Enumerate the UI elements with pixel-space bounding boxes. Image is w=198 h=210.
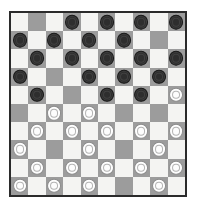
board-square-r4c9[interactable] <box>150 68 167 86</box>
white-piece[interactable] <box>152 179 166 194</box>
board-square-r7c1[interactable] <box>11 122 28 140</box>
board-square-r10c2[interactable] <box>28 177 45 195</box>
white-piece[interactable] <box>169 160 183 175</box>
white-piece[interactable] <box>169 124 183 139</box>
board-square-r7c8[interactable] <box>133 122 150 140</box>
black-piece[interactable] <box>30 88 44 103</box>
board-square-r1c4[interactable] <box>63 13 80 31</box>
board-square-r2c10[interactable] <box>168 31 185 49</box>
board-square-r6c5[interactable] <box>81 104 98 122</box>
black-piece[interactable] <box>13 33 27 48</box>
black-piece[interactable] <box>117 33 131 48</box>
board-square-r2c6[interactable] <box>98 31 115 49</box>
board-square-r1c1[interactable] <box>11 13 28 31</box>
board-square-r4c6[interactable] <box>98 68 115 86</box>
white-piece[interactable] <box>169 88 183 103</box>
board-square-r6c3[interactable] <box>46 104 63 122</box>
board-square-r7c10[interactable] <box>168 122 185 140</box>
board-square-r6c6[interactable] <box>98 104 115 122</box>
black-piece[interactable] <box>30 51 44 66</box>
board-square-r6c9[interactable] <box>150 104 167 122</box>
board-square-r3c3[interactable] <box>46 49 63 67</box>
board-square-r8c8[interactable] <box>133 140 150 158</box>
board-grid[interactable] <box>11 13 185 195</box>
black-piece[interactable] <box>100 88 114 103</box>
board-square-r5c9[interactable] <box>150 86 167 104</box>
board-square-r9c6[interactable] <box>98 159 115 177</box>
board-square-r5c1[interactable] <box>11 86 28 104</box>
board-square-r10c5[interactable] <box>81 177 98 195</box>
white-piece[interactable] <box>100 124 114 139</box>
board-square-r1c6[interactable] <box>98 13 115 31</box>
board-square-r2c4[interactable] <box>63 31 80 49</box>
black-piece[interactable] <box>169 51 183 66</box>
board-square-r5c5[interactable] <box>81 86 98 104</box>
board-square-r5c6[interactable] <box>98 86 115 104</box>
board-square-r7c4[interactable] <box>63 122 80 140</box>
board-square-r1c10[interactable] <box>168 13 185 31</box>
black-piece[interactable] <box>135 51 149 66</box>
black-piece[interactable] <box>82 69 96 84</box>
board-square-r3c10[interactable] <box>168 49 185 67</box>
board-square-r4c2[interactable] <box>28 68 45 86</box>
board-square-r5c8[interactable] <box>133 86 150 104</box>
board-square-r4c7[interactable] <box>115 68 132 86</box>
white-piece[interactable] <box>135 124 149 139</box>
board-square-r7c6[interactable] <box>98 122 115 140</box>
board-square-r2c2[interactable] <box>28 31 45 49</box>
black-piece[interactable] <box>65 15 79 30</box>
board-square-r5c4[interactable] <box>63 86 80 104</box>
black-piece[interactable] <box>100 15 114 30</box>
board-square-r2c5[interactable] <box>81 31 98 49</box>
white-piece[interactable] <box>65 124 79 139</box>
black-piece[interactable] <box>48 33 62 48</box>
board-square-r10c7[interactable] <box>115 177 132 195</box>
board-square-r9c4[interactable] <box>63 159 80 177</box>
board-square-r2c7[interactable] <box>115 31 132 49</box>
board-square-r9c3[interactable] <box>46 159 63 177</box>
board-square-r8c2[interactable] <box>28 140 45 158</box>
board-square-r6c1[interactable] <box>11 104 28 122</box>
white-piece[interactable] <box>82 106 96 121</box>
board-square-r7c5[interactable] <box>81 122 98 140</box>
board-square-r3c6[interactable] <box>98 49 115 67</box>
board-square-r10c6[interactable] <box>98 177 115 195</box>
board-square-r3c5[interactable] <box>81 49 98 67</box>
white-piece[interactable] <box>65 160 79 175</box>
white-piece[interactable] <box>82 142 96 157</box>
board-square-r5c7[interactable] <box>115 86 132 104</box>
white-piece[interactable] <box>152 142 166 157</box>
white-piece[interactable] <box>30 124 44 139</box>
black-piece[interactable] <box>82 33 96 48</box>
black-piece[interactable] <box>135 88 149 103</box>
board-square-r1c9[interactable] <box>150 13 167 31</box>
white-piece[interactable] <box>135 160 149 175</box>
board-square-r7c7[interactable] <box>115 122 132 140</box>
board-square-r2c8[interactable] <box>133 31 150 49</box>
board-square-r3c8[interactable] <box>133 49 150 67</box>
board-square-r2c3[interactable] <box>46 31 63 49</box>
board-square-r5c3[interactable] <box>46 86 63 104</box>
board-square-r8c3[interactable] <box>46 140 63 158</box>
board-square-r8c5[interactable] <box>81 140 98 158</box>
board-square-r9c2[interactable] <box>28 159 45 177</box>
board-square-r6c4[interactable] <box>63 104 80 122</box>
board-square-r4c5[interactable] <box>81 68 98 86</box>
board-square-r7c3[interactable] <box>46 122 63 140</box>
board-square-r4c8[interactable] <box>133 68 150 86</box>
board-square-r9c8[interactable] <box>133 159 150 177</box>
white-piece[interactable] <box>82 179 96 194</box>
board-square-r7c2[interactable] <box>28 122 45 140</box>
board-square-r2c9[interactable] <box>150 31 167 49</box>
board-square-r7c9[interactable] <box>150 122 167 140</box>
black-piece[interactable] <box>152 69 166 84</box>
board-square-r1c2[interactable] <box>28 13 45 31</box>
white-piece[interactable] <box>100 160 114 175</box>
board-square-r8c4[interactable] <box>63 140 80 158</box>
board-square-r9c10[interactable] <box>168 159 185 177</box>
board-square-r3c9[interactable] <box>150 49 167 67</box>
board-square-r6c2[interactable] <box>28 104 45 122</box>
board-square-r10c1[interactable] <box>11 177 28 195</box>
black-piece[interactable] <box>65 51 79 66</box>
board-square-r1c3[interactable] <box>46 13 63 31</box>
